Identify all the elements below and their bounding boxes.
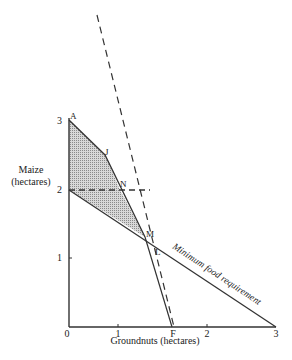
- x-tick-label-1: 1: [116, 328, 121, 339]
- point-label-J: J: [105, 147, 109, 157]
- linear-programming-diagram: Maize (hectares) Groundnuts (hectares) 0…: [0, 0, 292, 360]
- point-label-F: F: [170, 328, 176, 339]
- feasible-region: [69, 120, 145, 237]
- x-axis-label: Groundnuts (hectares): [110, 335, 199, 347]
- y-axis-label-maize: Maize: [19, 164, 45, 175]
- point-label-N: N: [120, 179, 127, 189]
- x-tick-label-3: 3: [274, 328, 279, 339]
- point-label-A: A: [70, 111, 77, 121]
- y-axis-label-hectares: (hectares): [11, 176, 50, 188]
- y-tick-label-1: 1: [57, 252, 62, 263]
- x-tick-label-0: 0: [65, 328, 70, 339]
- point-label-M: M: [146, 229, 154, 239]
- y-tick-label-2: 2: [57, 184, 62, 195]
- x-tick-label-2: 2: [205, 328, 210, 339]
- point-label-L: L: [155, 247, 161, 257]
- minimum-food-requirement-label: Minimum food requirement: [170, 241, 263, 307]
- minimum-food-requirement-line: [69, 190, 276, 327]
- y-tick-label-3: 3: [57, 115, 62, 126]
